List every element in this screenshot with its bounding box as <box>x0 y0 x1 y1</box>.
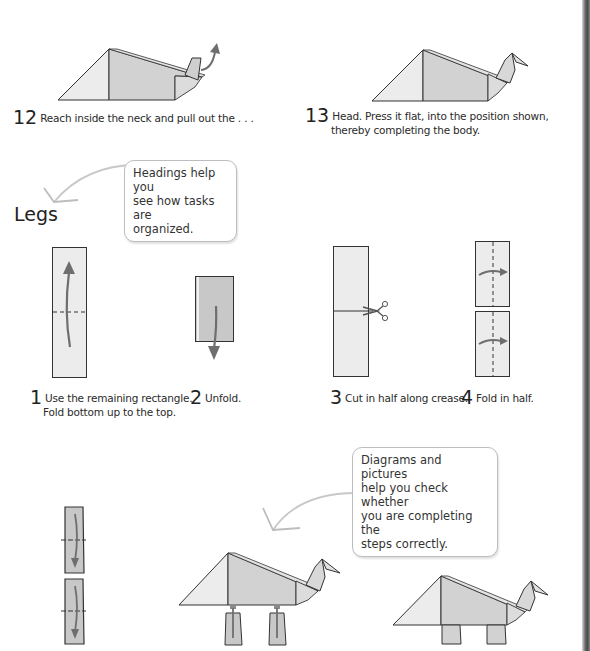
leg-piece <box>225 604 242 645</box>
step-text: Use the remaining rectangle. <box>45 392 192 404</box>
legs-step-3-diagram <box>333 246 403 378</box>
step-13-diagram <box>370 48 540 113</box>
step-text: Unfold. <box>205 392 241 404</box>
step-text: Reach inside the neck and pull out the .… <box>40 112 253 124</box>
legs-step-1-diagram <box>52 247 88 379</box>
step-number: 1 <box>30 386 42 408</box>
step-number: 4 <box>461 386 473 408</box>
step-text: Head. Press it flat, into the position s… <box>332 110 548 122</box>
legs-step-5-diagram <box>60 506 90 648</box>
callout-line: you are completing the <box>361 509 489 537</box>
legs-step-4-caption: 4Fold in half. <box>461 390 534 405</box>
legs-step-3-caption: 3Cut in half along crease. <box>330 390 468 405</box>
callout-headings: Headings help you see how tasks are orga… <box>124 160 237 242</box>
step-number: 3 <box>330 386 342 408</box>
completed-dinosaur-diagram <box>392 576 552 651</box>
book-spine <box>582 0 590 651</box>
leg-piece <box>269 604 286 645</box>
step-number: 2 <box>190 386 202 408</box>
callout-line: Diagrams and pictures <box>361 453 489 481</box>
legs-step-6-diagram <box>178 553 348 651</box>
callout-pointer-icon <box>258 490 358 540</box>
step-text: Cut in half along crease. <box>345 392 468 404</box>
legs-step-2-caption: 2Unfold. <box>190 390 241 405</box>
callout-line: see how tasks are <box>133 194 228 222</box>
step-12-caption: 12Reach inside the neck and pull out the… <box>13 110 254 125</box>
legs-step-4-diagram <box>475 241 515 381</box>
legs-step-1-caption: 1Use the remaining rectangle. Fold botto… <box>30 390 192 419</box>
callout-line: help you check whether <box>361 481 489 509</box>
step-number: 12 <box>13 106 37 128</box>
step-12-diagram <box>55 40 235 110</box>
step-text: Fold in half. <box>476 392 534 404</box>
legs-step-2-diagram <box>195 276 235 366</box>
step-text-cont: Fold bottom up to the top. <box>30 405 192 419</box>
callout-line: steps correctly. <box>361 537 489 551</box>
step-number: 13 <box>305 104 329 126</box>
step-text-cont: thereby completing the body. <box>305 123 549 137</box>
step-13-caption: 13Head. Press it flat, into the position… <box>305 108 549 137</box>
callout-line: Headings help you <box>133 166 228 194</box>
callout-line: organized. <box>133 222 228 236</box>
callout-diagrams: Diagrams and pictures help you check whe… <box>352 447 498 557</box>
